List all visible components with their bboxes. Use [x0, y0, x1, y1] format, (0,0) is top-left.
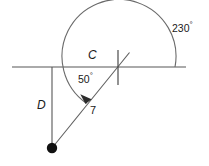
interior-angle-value: 50: [78, 73, 90, 85]
arc-angle-value: 230: [172, 22, 190, 34]
arc-230-degrees: [62, 0, 176, 103]
degree-symbol-interior: °: [90, 71, 93, 80]
vertical-length-label: D: [37, 99, 46, 111]
geometry-diagram: C 50° 230° D 7: [0, 0, 209, 166]
degree-symbol-arc: °: [190, 20, 193, 29]
vertex-point: [47, 143, 57, 153]
interior-angle-label: 50°: [78, 72, 93, 84]
arc-label-c: C: [88, 49, 97, 61]
diagonal-length-label: 7: [90, 105, 96, 116]
arc-angle-label: 230°: [172, 21, 193, 33]
